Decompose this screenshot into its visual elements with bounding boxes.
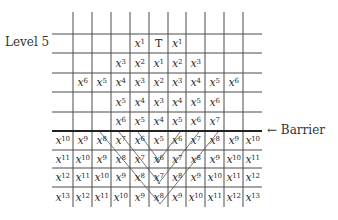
grid-cell: x5 [92, 73, 111, 92]
grid-cell: x6 [224, 73, 243, 92]
grid-cell: x4 [168, 92, 186, 112]
grid-cell: x5 [205, 73, 224, 92]
grid-cell: x4 [186, 73, 205, 92]
grid-cell: x11 [92, 187, 111, 207]
grid-cell: x12 [224, 187, 243, 207]
grid-cell: x8 [130, 168, 149, 187]
grid-cell: x6 [149, 150, 168, 168]
grid-cell: x10 [73, 150, 92, 168]
grid-cell: x9 [73, 131, 92, 150]
grid-cell: x9 [168, 187, 186, 207]
grid-cell: x11 [243, 150, 262, 168]
level-label: Level 5 [5, 35, 49, 49]
grid-cell: x3 [149, 92, 168, 112]
grid-cell: x5 [186, 92, 205, 112]
grid-cell: x9 [111, 168, 130, 187]
grid-cell: x7 [149, 168, 168, 187]
grid-cell: x12 [243, 168, 262, 187]
grid-cell: x10 [224, 150, 243, 168]
grid-cell: x9 [130, 187, 149, 207]
grid-cell: x12 [52, 168, 73, 187]
grid-cell: x9 [186, 168, 205, 187]
grid-cell: x1 [168, 34, 186, 53]
grid-cell: x7 [168, 150, 186, 168]
grid-cell: x11 [52, 150, 73, 168]
grid-cell: x3 [130, 73, 149, 92]
grid-cell: x7 [205, 112, 224, 131]
grid-cell: x5 [168, 112, 186, 131]
grid-cell: x7 [130, 150, 149, 168]
grid-cell: x6 [186, 112, 205, 131]
grid-cell: x5 [111, 92, 130, 112]
grid-cell: x6 [73, 73, 92, 92]
grid-cell: x5 [149, 131, 168, 150]
grid-cell: x2 [130, 53, 149, 73]
target-cell: T [149, 34, 168, 53]
grid-cell: x2 [168, 53, 186, 73]
grid-cell: x9 [205, 150, 224, 168]
grid-cell: x13 [243, 187, 262, 207]
grid-cell: x4 [130, 92, 149, 112]
grid-cell: x4 [111, 73, 130, 92]
grid-cell: x13 [52, 187, 73, 207]
grid-cell: x2 [149, 73, 168, 92]
grid-cell: x8 [186, 150, 205, 168]
grid-cell: x8 [111, 150, 130, 168]
grid-cell: x6 [111, 112, 130, 131]
grid-cell: x7 [186, 131, 205, 150]
grid-cell: x10 [52, 131, 73, 150]
grid-cell: x3 [186, 53, 205, 73]
grid-cell: x5 [130, 112, 149, 131]
grid-cell: x6 [130, 131, 149, 150]
grid-cell: x9 [92, 150, 111, 168]
grid-cell: x6 [168, 131, 186, 150]
grid-cell: x12 [73, 187, 92, 207]
grid-cell: x10 [205, 168, 224, 187]
grid-cell: x11 [73, 168, 92, 187]
grid-cell: x3 [168, 73, 186, 92]
barrier-label: ← Barrier [267, 123, 325, 137]
grid-cell: x10 [111, 187, 130, 207]
grid-cell: x11 [205, 187, 224, 207]
grid-cell: x7 [111, 131, 130, 150]
grid-cell: x11 [224, 168, 243, 187]
sublevel-grid-diagram: x1Tx1x3x2x1x2x3x6x5x4x3x2x3x4x5x6x5x4x3x… [0, 0, 338, 220]
grid-cell: x8 [92, 131, 111, 150]
grid-cell: x1 [130, 34, 149, 53]
grid-cell: x4 [149, 112, 168, 131]
grid-cell: x8 [149, 187, 168, 207]
grid-cell: x10 [186, 187, 205, 207]
grid-cell: x6 [205, 92, 224, 112]
grid-cell: x9 [224, 131, 243, 150]
grid-cell: x10 [92, 168, 111, 187]
grid-cell: x3 [111, 53, 130, 73]
grid-cell: x1 [149, 53, 168, 73]
grid-cell: x10 [243, 131, 262, 150]
grid-cell: x8 [205, 131, 224, 150]
grid-cell: x8 [168, 168, 186, 187]
